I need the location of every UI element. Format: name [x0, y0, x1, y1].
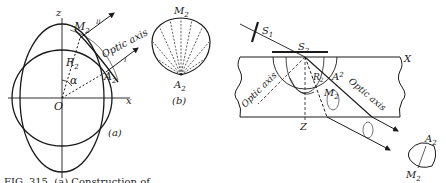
inset-ray: [418, 146, 426, 168]
ray-ii-label: II: [95, 18, 101, 25]
ray-outside-right: [372, 117, 398, 131]
optic-axis-right-label: Optic axis: [347, 76, 389, 113]
figure-caption: FIG. 315. (a) Construction of: [4, 176, 150, 183]
ray-fan-b: [153, 18, 209, 75]
panel-b: [152, 18, 210, 75]
b-a2-label: A2: [173, 79, 186, 93]
x-label: X: [403, 53, 412, 64]
z-label: Z: [299, 121, 308, 132]
m2-label: M2: [73, 20, 90, 35]
plate-right-edge: [398, 57, 405, 117]
b-m2-label: M2: [173, 5, 189, 19]
panel-a-caption: (a): [108, 127, 122, 138]
origin-label: O: [54, 100, 63, 113]
panel-a: [8, 13, 138, 178]
plate-left-edge: [235, 57, 242, 117]
optic-axis-left-label: Optic axis: [239, 70, 278, 109]
x-axis-label: x: [126, 95, 132, 106]
z-axis-label: z: [55, 7, 62, 18]
panel-b-caption: (b): [172, 95, 186, 106]
wave-ellipse-2: [363, 122, 373, 138]
figure-diagram: z x O α R2 M2 A2 II I Optic axis (a) M2 …: [0, 0, 446, 183]
r2-label: R2: [65, 56, 79, 71]
s1-label: S1: [262, 25, 273, 39]
panel-b-labels: M2 A2 (b): [172, 5, 189, 106]
inset-m2-label: M2: [405, 169, 421, 183]
optic-axis-ray: [62, 72, 106, 98]
c-m2-label: M2: [323, 87, 339, 101]
optic-axis-label: Optic axis: [100, 26, 150, 59]
alpha-label: α: [70, 74, 78, 87]
c-a2-label: A2: [331, 71, 344, 82]
inset-a2-label: A2: [424, 133, 437, 147]
